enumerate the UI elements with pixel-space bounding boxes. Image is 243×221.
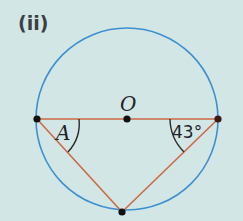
left-chord [37, 119, 122, 212]
angle-label-A: A [54, 121, 70, 145]
circle-diagram: O A 43° [0, 0, 243, 221]
angle-label-43: 43° [172, 122, 202, 142]
point-left [33, 115, 40, 122]
right-chord [122, 119, 218, 212]
point-bottom [118, 208, 125, 215]
center-label: O [120, 92, 136, 116]
point-right [214, 115, 221, 122]
point-center [123, 115, 130, 122]
